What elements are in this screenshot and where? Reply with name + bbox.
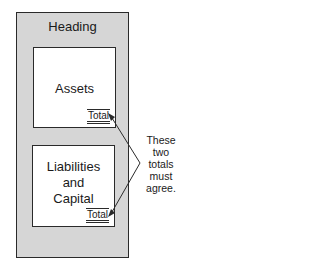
note-line: These — [141, 134, 181, 146]
note-line: two — [141, 146, 181, 158]
note-line: must — [141, 170, 181, 182]
agreement-annotation: These two totals must agree. — [141, 134, 181, 194]
note-line: agree. — [141, 182, 181, 194]
note-line: totals — [141, 158, 181, 170]
